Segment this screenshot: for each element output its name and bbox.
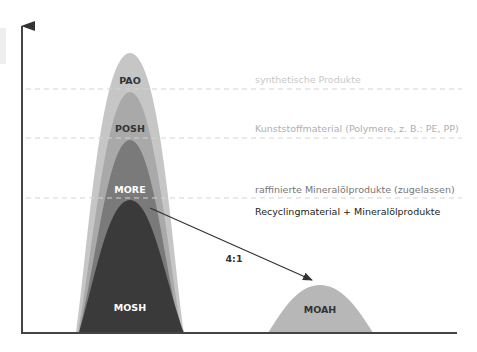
- more-label: MORE: [114, 184, 145, 195]
- pao-label: PAO: [119, 75, 141, 86]
- level-label-synthetic: synthetische Produkte: [255, 74, 361, 85]
- ratio-label: 4:1: [225, 253, 242, 264]
- mosh-label: MOSH: [114, 302, 146, 313]
- level-label-polymer: Kunststoffmaterial (Polymere, z. B.: PE,…: [255, 123, 459, 134]
- level-label-recycling: Recyclingmaterial + Mineralölprodukte: [255, 206, 440, 217]
- hydrocarbon-diagram: PAO POSH MORE MOSH MOAH 4:1 synthetische…: [0, 0, 477, 352]
- posh-label: POSH: [115, 123, 145, 134]
- level-label-refined: raffinierte Mineralölprodukte (zugelasse…: [255, 184, 455, 195]
- moah-label: MOAH: [304, 304, 337, 315]
